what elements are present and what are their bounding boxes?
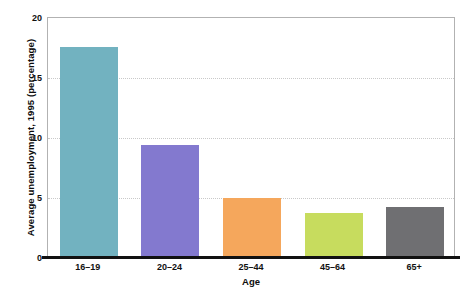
- bar-25–44: [223, 198, 281, 257]
- y-tick-label: 10: [32, 133, 42, 143]
- y-tick-label: 15: [32, 73, 42, 83]
- bar-16–19: [60, 47, 118, 257]
- x-axis-line: [42, 256, 460, 259]
- bar-20–24: [141, 145, 199, 257]
- x-tick-label: 65+: [407, 262, 422, 272]
- x-axis-title: Age: [47, 276, 455, 287]
- x-tick-label: 16–19: [75, 262, 100, 272]
- x-tick-label: 45–64: [320, 262, 345, 272]
- y-tick-label: 20: [32, 13, 42, 23]
- bar-65+: [386, 207, 444, 257]
- y-tick-label: 5: [37, 193, 42, 203]
- x-tick-label: 25–44: [238, 262, 263, 272]
- plot-area: 05101520: [47, 17, 455, 257]
- bar-45–64: [305, 213, 363, 257]
- x-tick-label: 20–24: [157, 262, 182, 272]
- bar-chart-figure: Average unemployment, 1995 (percentage) …: [0, 0, 461, 292]
